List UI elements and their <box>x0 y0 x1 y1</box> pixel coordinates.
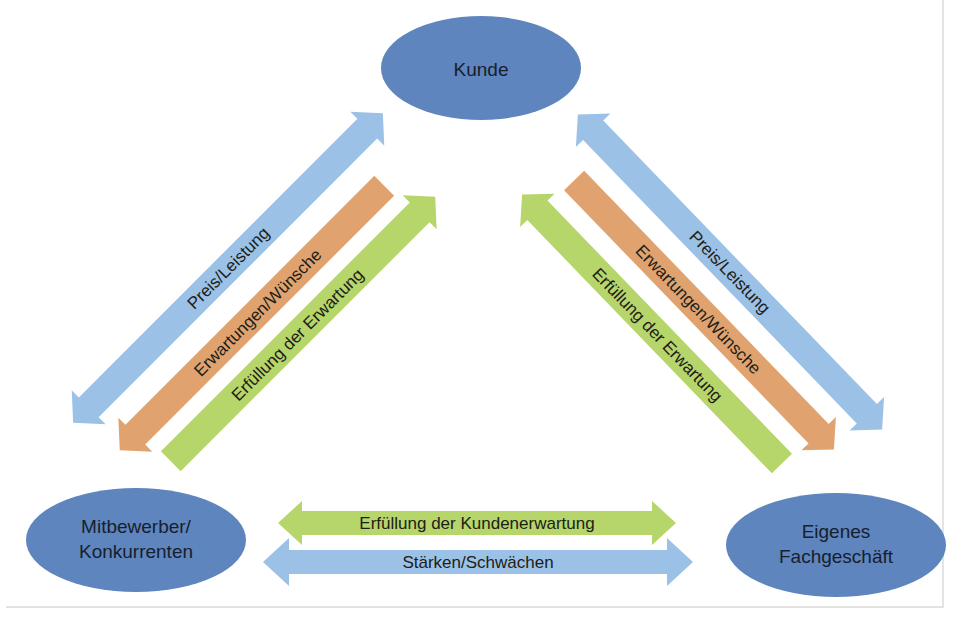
node-eigenes-label-line2: Fachgeschäft <box>779 546 894 567</box>
arrow-right-erfuellung-erwartung: Erfüllung der Erwartung <box>505 178 799 480</box>
arrow-bottom-kundenerwartung-label: Erfüllung der Kundenerwartung <box>359 514 594 533</box>
arrow-left-erwartungen-wuensche: Erwartungen/Wünsche <box>103 169 401 467</box>
node-mitbewerber: Mitbewerber/ Konkurrenten <box>26 488 246 592</box>
node-kunde-label: Kunde <box>454 59 509 80</box>
arrow-right-erwartungen-wuensche: Erwartungen/Wünsche <box>557 164 851 466</box>
node-mitbewerber-label-line2: Konkurrenten <box>79 541 193 562</box>
node-kunde: Kunde <box>381 16 581 120</box>
arrow-left-erfuellung-erwartung: Erfüllung der Erwartung <box>154 180 452 478</box>
node-eigenes-fachgeschaeft: Eigenes Fachgeschäft <box>726 493 946 597</box>
node-eigenes-label-line1: Eigenes <box>802 521 871 542</box>
node-mitbewerber-label-line1: Mitbewerber/ <box>81 516 192 537</box>
arrow-bottom-kundenerwartung: Erfüllung der Kundenerwartung <box>278 501 676 545</box>
triangle-diagram: Kunde Mitbewerber/ Konkurrenten Eigenes … <box>0 0 954 623</box>
arrow-bottom-staerken-label: Stärken/Schwächen <box>402 553 553 572</box>
arrow-bottom-staerken-schwaechen: Stärken/Schwächen <box>263 538 693 586</box>
